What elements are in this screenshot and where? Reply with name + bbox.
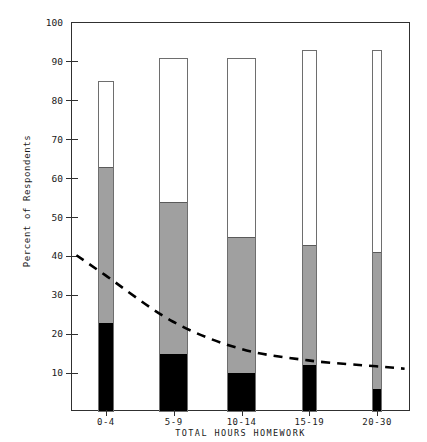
plot-area: 102030405060708090100 0-45-910-1415-1920… [71,22,410,411]
bar-segment-gray [160,202,187,354]
y-tick-label: 90 [33,55,63,68]
y-tick-label: 10 [33,366,63,379]
bar-15-19 [302,50,317,412]
y-tick-mark [66,217,78,218]
y-tick-mark [66,334,78,335]
y-axis-title: Percent of Respondents [22,101,32,301]
bar-segment-gray [373,252,381,388]
bar-segment-gray [303,245,316,366]
x-tick-label: 0-4 [71,417,141,427]
x-tick-label: 5-9 [139,417,209,427]
y-tick-label: 30 [33,288,63,301]
bar-segment-black [99,323,112,411]
y-tick-mark [66,256,78,257]
bar-segment-gray [228,237,255,373]
y-tick-label: 70 [33,133,63,146]
y-tick-label: 20 [33,327,63,340]
y-tick-mark [66,100,78,101]
bar-segment-black [373,389,381,411]
x-tick-mark [377,410,378,416]
y-tick-label: 40 [33,249,63,262]
y-tick-label: 80 [33,94,63,107]
y-tick-label: 60 [33,172,63,185]
y-tick-mark [66,61,78,62]
x-tick-mark [106,410,107,416]
x-tick-label: 15-19 [274,417,344,427]
bar-20-30 [372,50,382,412]
bar-10-14 [227,58,256,412]
y-tick-label: 100 [33,16,63,29]
y-tick-mark [66,139,78,140]
bar-0-4 [98,81,113,412]
y-tick-mark [66,295,78,296]
bar-segment-black [228,373,255,411]
x-axis-title: TOTAL HOURS HOMEWORK [71,428,410,438]
bar-segment-black [160,354,187,411]
bar-5-9 [159,58,188,412]
x-tick-label: 20-30 [342,417,412,427]
y-tick-mark [66,178,78,179]
bar-segment-black [303,365,316,411]
bar-segment-gray [99,167,112,323]
x-tick-mark [309,410,310,416]
x-tick-mark [174,410,175,416]
y-tick-label: 50 [33,211,63,224]
x-tick-mark [242,410,243,416]
y-tick-mark [66,373,78,374]
x-tick-label: 10-14 [207,417,277,427]
chart-figure: Percent of Respondents 10203040506070809… [0,0,427,442]
